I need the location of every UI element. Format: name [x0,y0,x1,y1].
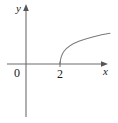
y-axis-arrow-icon [23,4,29,11]
sqrt-curve [60,33,110,64]
origin-label: 0 [14,67,20,79]
graph-canvas [0,0,118,123]
graph-figure: y x 0 2 [0,0,118,123]
y-axis-label: y [16,3,21,14]
x-axis-label: x [103,66,108,77]
x-intercept-label: 2 [57,68,63,80]
